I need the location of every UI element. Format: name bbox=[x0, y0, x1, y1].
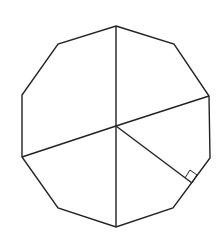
decagon-diagram bbox=[0, 0, 224, 239]
right-angle-marker bbox=[185, 170, 197, 183]
radius-to-left-vertex bbox=[22, 126, 116, 157]
diagram-canvas bbox=[0, 0, 224, 239]
apothem bbox=[116, 126, 192, 183]
radius-to-right-vertex bbox=[116, 96, 209, 126]
